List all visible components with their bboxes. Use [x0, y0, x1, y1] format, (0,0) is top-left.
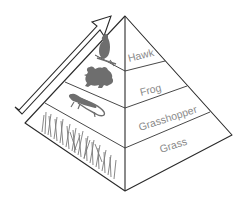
hawk-icon — [97, 34, 116, 66]
pyramid-outline — [25, 16, 232, 191]
label-grass: Grass — [158, 135, 188, 155]
label-hawk: Hawk — [127, 46, 156, 64]
label-frog: Frog — [139, 81, 163, 98]
label-grasshopper: Grasshopper — [137, 103, 199, 133]
level-labels: Hawk Frog Grasshopper Grass — [127, 46, 199, 155]
level-dividers — [45, 55, 210, 148]
food-pyramid-diagram: Hawk Frog Grasshopper Grass — [0, 0, 246, 202]
frog-icon — [84, 67, 113, 88]
energy-flow-arrow — [15, 16, 111, 114]
